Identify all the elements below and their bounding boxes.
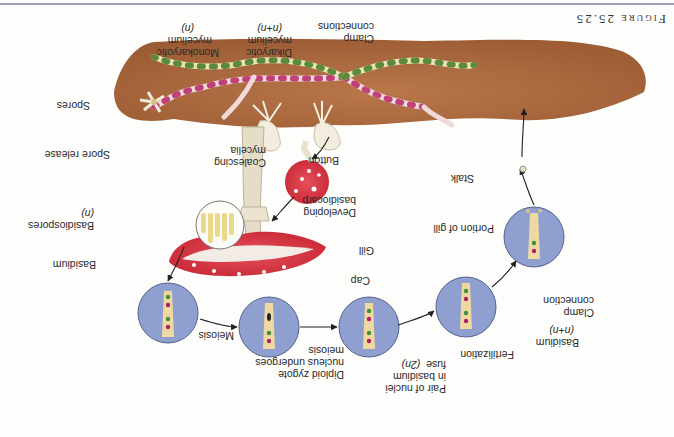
stage-fusion (239, 297, 299, 357)
label-diploid-1: Diploid zygote (278, 369, 344, 381)
label-dikaryotic-2: mycelium (248, 35, 292, 47)
stage-diploid (339, 297, 399, 357)
label-spore-release: Spore release (45, 149, 110, 161)
label-spores: Spores (57, 100, 90, 112)
label-clamp-connections-1: Clamp (344, 33, 374, 45)
label-monokaryotic-1: Monokaryotic (157, 47, 219, 59)
label-monokaryotic-2: mycelium (168, 35, 212, 47)
stage-basidiospores (504, 207, 564, 267)
label-diploid-3: meiosis (308, 345, 344, 357)
label-pair-2: in basidium (393, 371, 446, 383)
stage-meiosis (436, 277, 496, 337)
figure-canvas: Portion of gill Gill Cap Stalk Developin… (0, 0, 674, 437)
label-cap: Cap (351, 275, 370, 287)
label-basidiospores-1: Basidiospores (28, 220, 94, 232)
label-clamp-connection-2: connection (543, 295, 594, 307)
label-coalescing-1: Coalescing (214, 157, 266, 169)
label-meiosis: Meiosis (198, 330, 234, 342)
label-stalk: Stalk (451, 173, 474, 185)
label-pair-1: Pair of nuclei (385, 383, 446, 395)
label-basidium-nn-2: (n+n) (549, 325, 574, 337)
released-spore (520, 166, 526, 172)
gill-inset (196, 201, 244, 249)
label-basidiospores-2: (n) (81, 208, 94, 220)
label-fertilization: Fertilization (460, 349, 514, 361)
figure-title: Figure 25.25 (575, 11, 666, 27)
label-developing-1: Developing (303, 207, 356, 219)
label-developing-2: basidiocarp (302, 195, 356, 207)
label-pair-3: fuse (2n) (402, 359, 446, 371)
label-diploid-2: nucleus undergoes (255, 357, 344, 369)
label-portion-of-gill: Portion of gill (433, 223, 494, 235)
label-gill: Gill (359, 245, 374, 257)
label-clamp-connection-1: Clamp (564, 307, 594, 319)
label-button: Button (309, 155, 339, 167)
divider-rule (0, 3, 674, 5)
label-dikaryotic-3: (n+n) (257, 23, 282, 35)
stage-basidium-n-n (138, 283, 198, 343)
label-dikaryotic-1: Dikaryotic (246, 47, 292, 59)
label-coalescing-2: mycelia (230, 145, 266, 157)
label-basidium-nn-1: Basidium (536, 337, 579, 349)
label-basidium: Basidium (53, 259, 96, 271)
label-monokaryotic-3: (n) (181, 23, 194, 35)
label-clamp-connections-2: connections (318, 21, 374, 33)
